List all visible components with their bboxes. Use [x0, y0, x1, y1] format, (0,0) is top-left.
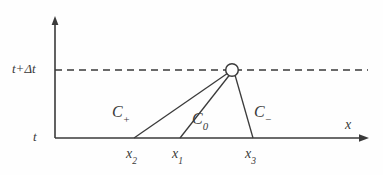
- x-tick-label-x3: x3: [245, 147, 256, 164]
- characteristic-label-c-minus: C−: [254, 104, 272, 123]
- horizontal-axis: [55, 134, 369, 142]
- x-tick-label-x1-subscript: 1: [178, 156, 183, 166]
- x-tick-label-x1: x1: [172, 147, 183, 164]
- characteristic-label-c-zero-base: C: [192, 110, 203, 127]
- diagram-canvas: [0, 0, 383, 175]
- characteristic-label-c-zero: C0: [192, 111, 208, 130]
- x-tick-label-x3-subscript: 3: [251, 156, 256, 166]
- characteristic-label-c-plus: C+: [112, 104, 130, 123]
- axis-label-x: x: [345, 118, 351, 132]
- characteristic-label-c-plus-subscript: +: [123, 113, 130, 125]
- characteristic-label-c-minus-base: C: [254, 103, 265, 120]
- characteristics-diagram: t+Δt t x C+ C0 C− x2 x1 x3: [0, 0, 383, 175]
- vertical-axis: [52, 16, 59, 138]
- characteristic-label-c-plus-base: C: [112, 103, 123, 120]
- characteristic-line-c-plus: [134, 73, 228, 138]
- x-tick-label-x2-subscript: 2: [132, 156, 137, 166]
- x-tick-label-x2: x2: [126, 147, 137, 164]
- axis-label-t-plus-delta-t: t+Δt: [12, 62, 36, 75]
- axis-label-t: t: [33, 130, 37, 143]
- characteristic-label-c-minus-subscript: −: [265, 113, 272, 125]
- characteristic-label-c-zero-subscript: 0: [203, 120, 208, 132]
- characteristic-line-c-minus: [235, 75, 253, 138]
- solution-point-node: [226, 64, 239, 77]
